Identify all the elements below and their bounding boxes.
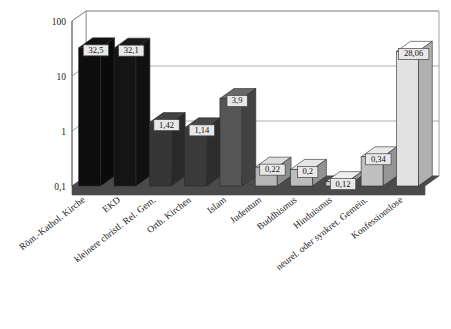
x-category-label-1: Röm.-Kathol. Kirche (17, 195, 87, 252)
x-category-label-text: Islam (205, 194, 228, 215)
chart-canvas: 1001010,132,532,11,421,143,90,220,20,120… (0, 0, 451, 329)
value-label-9: 0,34 (366, 154, 391, 165)
bar-chart: 1001010,132,532,11,421,143,90,220,20,120… (0, 0, 451, 329)
y-tick-label-10: 10 (57, 72, 67, 82)
bar-front-face (185, 128, 207, 186)
x-category-label-text: EKD (101, 195, 123, 215)
value-label-text: 32,1 (124, 45, 139, 55)
value-label-text: 1,14 (194, 125, 210, 135)
y-tick-labels: 1001010,1 (52, 17, 67, 192)
x-category-label-text: Buddhismus (255, 195, 299, 232)
bar-front-face (220, 98, 242, 186)
value-label-6: 0,22 (260, 164, 285, 175)
bar-front-face (396, 51, 418, 186)
bar-1[interactable] (79, 38, 115, 186)
bar-side-face (136, 38, 150, 186)
bar-front-face (79, 48, 101, 186)
bar-front-face (114, 48, 136, 186)
y-tick-label-1: 1 (61, 127, 66, 137)
bar-side-face (101, 38, 115, 186)
value-label-text: 32,5 (89, 45, 104, 55)
x-category-label-5: Islam (205, 194, 228, 215)
value-label-2: 32,1 (119, 45, 144, 56)
value-label-text: 3,9 (232, 95, 243, 105)
y-tick-label-100: 100 (52, 17, 67, 27)
bar-side-face (418, 41, 432, 186)
x-category-label-2: EKD (101, 195, 123, 215)
value-label-10: 28,06 (398, 48, 429, 59)
bar-front-face (149, 123, 171, 186)
value-label-4: 1,14 (189, 125, 214, 136)
value-label-7: 0,2 (298, 166, 318, 177)
value-label-1: 32,5 (83, 45, 108, 56)
value-label-3: 1,42 (154, 120, 179, 131)
value-label-8: 0,12 (330, 179, 355, 190)
value-label-text: 0,34 (371, 154, 387, 164)
value-label-text: 28,06 (404, 48, 423, 58)
value-label-text: 1,42 (159, 120, 174, 130)
bar-10[interactable] (396, 41, 432, 186)
value-label-text: 0,12 (336, 179, 351, 189)
floor-front (72, 186, 425, 195)
x-category-label-text: Röm.-Kathol. Kirche (17, 195, 87, 252)
y-tick-label-0,1: 0,1 (54, 182, 66, 192)
value-label-text: 0,2 (302, 166, 313, 176)
bar-2[interactable] (114, 38, 150, 186)
value-label-text: 0,22 (265, 164, 280, 174)
x-category-label-7: Buddhismus (255, 195, 299, 232)
value-label-5: 3,9 (227, 95, 247, 106)
bar-9[interactable] (361, 147, 397, 186)
x-category-labels: Röm.-Kathol. KircheEKDkleinere christl. … (17, 194, 404, 272)
